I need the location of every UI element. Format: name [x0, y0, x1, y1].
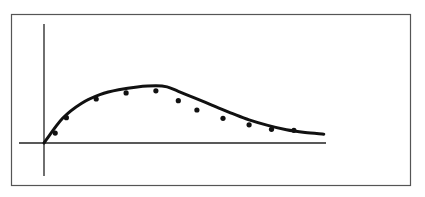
data-points — [53, 88, 297, 135]
chart-canvas — [0, 0, 425, 197]
data-point — [64, 115, 69, 120]
data-point — [247, 122, 252, 127]
data-point — [269, 127, 274, 132]
chart-frame — [12, 15, 411, 186]
data-point — [124, 90, 129, 95]
data-point — [53, 131, 58, 136]
data-point — [194, 107, 199, 112]
data-point — [94, 96, 99, 101]
data-point — [176, 98, 181, 103]
data-point — [220, 116, 225, 121]
data-point — [153, 88, 158, 93]
chart-figure — [0, 0, 425, 197]
fitted-curve — [44, 86, 324, 143]
data-point — [291, 128, 296, 133]
